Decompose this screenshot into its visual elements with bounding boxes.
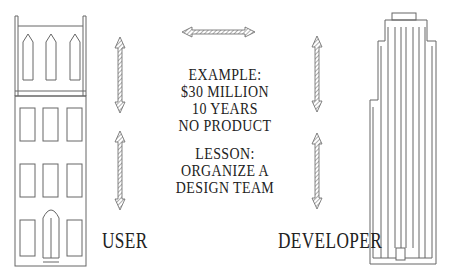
left-upper-bidirectional-arrow-icon [115,37,125,113]
lesson-heading: LESSON: [164,145,287,162]
example-line-2: 10 YEARS [164,100,287,117]
example-block: EXAMPLE: $30 MILLION 10 YEARS NO PRODUCT [164,66,287,134]
example-heading: EXAMPLE: [164,66,287,83]
bidirectional-horizontal-arrow-icon [182,27,255,37]
left-lower-bidirectional-arrow-icon [115,131,125,210]
brownstone-building-icon [15,16,86,266]
example-line-3: NO PRODUCT [164,117,287,134]
diagram-canvas [0,0,451,274]
lesson-line-2: DESIGN TEAM [164,179,287,196]
lesson-line-1: ORGANIZE A [164,162,287,179]
right-lower-bidirectional-arrow-icon [312,133,322,209]
lesson-block: LESSON: ORGANIZE A DESIGN TEAM [164,145,287,196]
user-label: USER [102,227,148,254]
developer-label: DEVELOPER [278,227,382,254]
right-upper-bidirectional-arrow-icon [312,36,322,112]
example-line-1: $30 MILLION [164,83,287,100]
